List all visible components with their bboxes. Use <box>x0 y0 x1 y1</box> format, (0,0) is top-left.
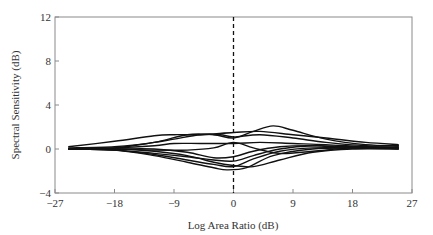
y-tick-label: 12 <box>40 11 51 23</box>
y-tick-label: 4 <box>46 99 52 111</box>
y-tick-label: 0 <box>46 143 52 155</box>
y-axis-title: Spectral Sensitivity (dB) <box>9 50 22 159</box>
y-tick-label: 8 <box>46 55 52 67</box>
x-tick-label: −9 <box>168 197 180 209</box>
y-ticks: −404812 <box>39 11 59 199</box>
x-ticks: −27−18−9091827 <box>46 189 418 209</box>
x-axis-title: Log Area Ratio (dB) <box>188 219 279 232</box>
x-tick-label: 9 <box>290 197 296 209</box>
x-tick-label: 18 <box>347 197 359 209</box>
y-tick-label: −4 <box>39 187 51 199</box>
x-tick-label: −18 <box>106 197 124 209</box>
x-tick-label: 0 <box>231 197 237 209</box>
x-tick-label: 27 <box>407 197 419 209</box>
spectral-sensitivity-chart: −27−18−9091827 −404812 Log Area Ratio (d… <box>0 0 433 235</box>
